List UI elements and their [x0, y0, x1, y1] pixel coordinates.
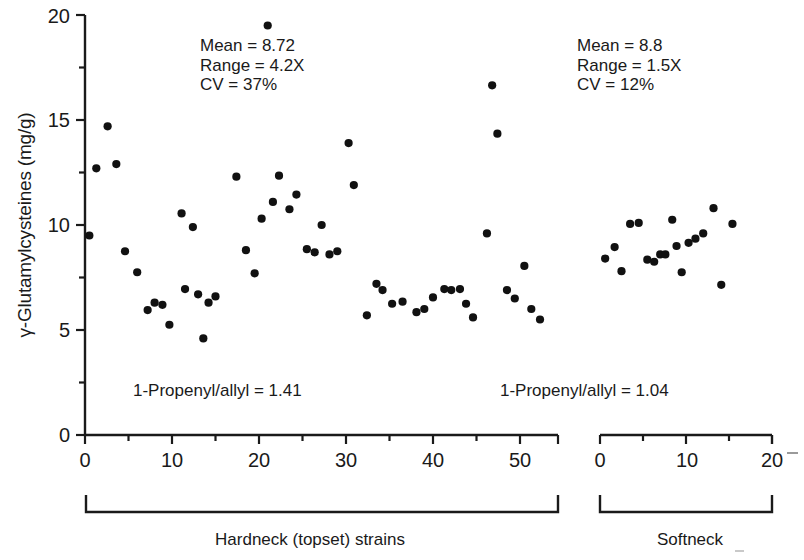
data-point	[144, 306, 152, 314]
data-point	[398, 298, 406, 306]
data-point	[104, 122, 112, 130]
data-point	[412, 308, 420, 316]
data-point	[650, 258, 658, 266]
data-point	[668, 216, 676, 224]
data-point	[611, 243, 619, 251]
data-point	[345, 139, 353, 147]
data-point	[440, 285, 448, 293]
data-point	[661, 250, 669, 258]
x-tick-label-left-10: 10	[149, 450, 195, 470]
data-point	[311, 248, 319, 256]
data-point	[177, 209, 185, 217]
x-tick-label-left-40: 40	[410, 450, 456, 470]
data-point	[318, 221, 326, 229]
data-point	[626, 220, 634, 228]
scatter-plot-figure: γ-Glutamylcysteines (mg/g) 0 5 10 15 20 …	[0, 0, 804, 560]
x-tick-label-left-50: 50	[497, 450, 543, 470]
x-tick-label-left-0: 0	[62, 450, 108, 470]
data-point	[303, 245, 311, 253]
data-point	[678, 268, 686, 276]
data-point	[181, 285, 189, 293]
series-softneck	[601, 204, 736, 289]
plot-canvas	[0, 0, 804, 560]
data-point	[635, 219, 643, 227]
hardneck-ratio-label: 1-Propenyl/allyl = 1.41	[133, 381, 302, 400]
data-point	[264, 21, 272, 29]
data-point	[85, 231, 93, 239]
data-point	[275, 172, 283, 180]
hardneck-range-text: Range = 4.2X	[200, 56, 304, 76]
data-point	[420, 305, 428, 313]
x-tick-label-left-30: 30	[323, 450, 369, 470]
data-point	[350, 181, 358, 189]
hardneck-stats-block: Mean = 8.72 Range = 4.2X CV = 37%	[200, 36, 304, 95]
data-point	[133, 268, 141, 276]
x-tick-label-right-0: 0	[577, 450, 623, 470]
data-point	[488, 81, 496, 89]
data-point	[251, 269, 259, 277]
data-point	[699, 229, 707, 237]
data-point	[684, 239, 692, 247]
data-point	[258, 215, 266, 223]
hardneck-group-label: Hardneck (topset) strains	[150, 530, 470, 550]
hardneck-mean-text: Mean = 8.72	[200, 36, 304, 56]
data-point	[92, 164, 100, 172]
x-tick-label-right-10: 10	[664, 450, 710, 470]
softneck-stats-block: Mean = 8.8 Range = 1.5X CV = 12%	[577, 36, 681, 95]
data-point	[527, 305, 535, 313]
scan-artifact-right	[787, 452, 798, 454]
softneck-mean-text: Mean = 8.8	[577, 36, 681, 56]
data-point	[469, 313, 477, 321]
data-point	[456, 285, 464, 293]
y-tick-label-15: 15	[26, 110, 70, 130]
data-point	[333, 247, 341, 255]
hardneck-group-bracket-line	[86, 495, 558, 512]
softneck-range-text: Range = 1.5X	[577, 56, 681, 76]
data-point	[717, 281, 725, 289]
data-point	[325, 250, 333, 258]
data-point	[536, 315, 544, 323]
data-point	[121, 247, 129, 255]
data-point	[285, 205, 293, 213]
data-point	[199, 334, 207, 342]
softneck-group-bracket-line	[600, 495, 772, 512]
data-point	[151, 299, 159, 307]
data-point	[204, 299, 212, 307]
data-point	[672, 242, 680, 250]
data-point	[429, 293, 437, 301]
data-point	[363, 311, 371, 319]
x-tick-label-left-20: 20	[236, 450, 282, 470]
data-point	[388, 300, 396, 308]
data-point	[493, 130, 501, 138]
series-hardneck	[85, 21, 544, 342]
data-point	[520, 262, 528, 270]
data-point	[601, 255, 609, 263]
data-point	[378, 286, 386, 294]
y-tick-label-0: 0	[26, 425, 70, 445]
data-point	[447, 286, 455, 294]
softneck-cv-text: CV = 12%	[577, 75, 681, 95]
data-point	[292, 190, 300, 198]
data-point	[728, 220, 736, 228]
data-point	[511, 294, 519, 302]
hardneck-group-bracket	[86, 495, 558, 512]
y-tick-label-20: 20	[26, 6, 70, 26]
data-point	[372, 280, 380, 288]
data-point	[483, 229, 491, 237]
data-point	[242, 246, 250, 254]
data-point	[462, 300, 470, 308]
data-point	[691, 235, 699, 243]
softneck-group-label: Softneck	[620, 530, 760, 550]
data-point	[112, 160, 120, 168]
scan-artifact-bottom	[735, 550, 744, 552]
data-point	[158, 301, 166, 309]
hardneck-cv-text: CV = 37%	[200, 75, 304, 95]
y-tick-label-5: 5	[26, 320, 70, 340]
data-point	[617, 267, 625, 275]
data-point	[503, 286, 511, 294]
softneck-group-bracket	[600, 495, 772, 512]
data-point	[211, 292, 219, 300]
softneck-ratio-label: 1-Propenyl/allyl = 1.04	[500, 381, 669, 400]
data-point	[165, 321, 173, 329]
data-point	[232, 173, 240, 181]
